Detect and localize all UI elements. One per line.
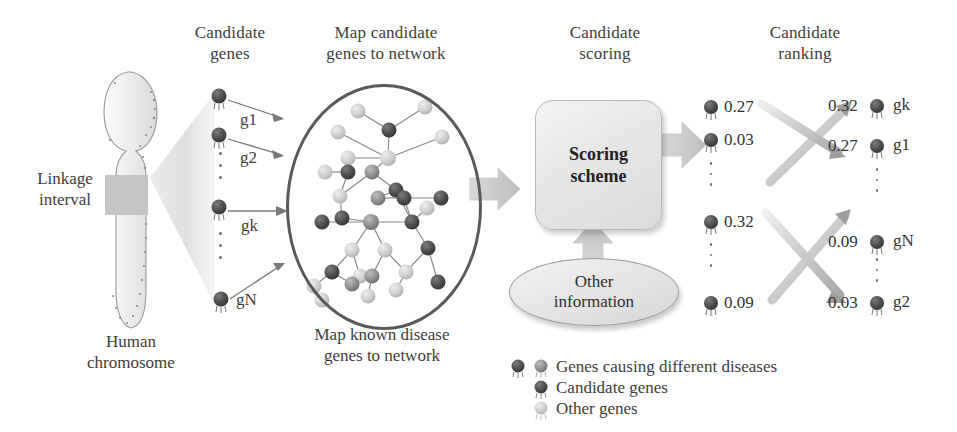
stage-title-map-to-network: Map candidate genes to network — [296, 22, 476, 64]
zoom-funnel — [150, 92, 215, 305]
arrow-scoring-to-scores — [662, 122, 706, 168]
network-caption-line2: genes to network — [287, 345, 477, 366]
candidate-column-dots-lower — [213, 232, 227, 268]
other-info-line1: Other — [554, 272, 634, 292]
stage-title-candidate-scoring: Candidate scoring — [525, 22, 685, 64]
linkage-label-line2: interval — [24, 189, 106, 210]
human-chromosome-caption: Human chromosome — [46, 331, 216, 373]
scored-value-0: 0.27 — [724, 98, 754, 116]
stage-title-line2: genes — [170, 43, 290, 64]
other-information-text: Other information — [554, 272, 634, 312]
candidate-gene-label-gk: gk — [241, 216, 258, 236]
candidate-column-dots-upper — [213, 152, 227, 188]
linkage-label-line1: Linkage — [24, 168, 106, 189]
chromosome-caption-line1: Human — [46, 331, 216, 352]
ranked-label-2: gN — [893, 232, 914, 250]
scored-column-dots-lower — [705, 243, 717, 275]
linkage-interval-label: Linkage interval — [24, 168, 106, 210]
stage-title-candidate-ranking: Candidate ranking — [725, 22, 885, 64]
candidate-gene-label-gN: gN — [236, 290, 257, 310]
scored-column-dots-upper — [705, 162, 717, 194]
ranked-value-0: 0.32 — [828, 97, 858, 115]
legend-row-disease-genes: Genes causing different diseases — [556, 356, 777, 377]
scored-value-2: 0.32 — [724, 213, 754, 231]
legend-icon-candidate-genes — [535, 381, 548, 400]
linkage-interval-band — [105, 175, 148, 215]
candidate-arrowheads — [272, 113, 288, 271]
legend-row-other-genes: Other genes — [556, 398, 638, 419]
scored-value-3: 0.09 — [724, 294, 754, 312]
network-caption: Map known disease genes to network — [287, 324, 477, 366]
ranked-column-dots-upper — [871, 168, 883, 200]
scoring-scheme-box[interactable]: Scoring scheme — [535, 100, 662, 230]
ranked-column-dots-lower — [871, 258, 883, 290]
stage-title-line1: Candidate — [170, 22, 290, 43]
scoring-scheme-text: Scoring scheme — [569, 143, 628, 187]
other-info-line2: information — [554, 292, 634, 312]
ranked-label-1: g1 — [893, 136, 910, 154]
stage-title-line1: Candidate — [725, 22, 885, 43]
legend-icons — [512, 360, 548, 421]
network-caption-line1: Map known disease — [287, 324, 477, 345]
scored-gene-icons — [704, 100, 718, 316]
other-information-node[interactable]: Other information — [509, 258, 679, 326]
stage-title-line2: ranking — [725, 43, 885, 64]
legend-icon-disease-genes — [512, 360, 548, 379]
scoring-box-line2: scheme — [569, 165, 628, 187]
ranked-value-3: 0.03 — [828, 294, 858, 312]
scored-value-1: 0.03 — [724, 131, 754, 149]
scoring-box-line1: Scoring — [569, 143, 628, 165]
legend-icon-other-genes — [535, 402, 548, 421]
ranked-label-3: g2 — [893, 293, 910, 311]
human-chromosome-graphic — [104, 72, 157, 328]
network-boundary-ellipse — [286, 84, 482, 330]
stage-title-candidate-genes: Candidate genes — [170, 22, 290, 64]
ranked-value-2: 0.09 — [828, 233, 858, 251]
stage-title-line1: Map candidate — [296, 22, 476, 43]
ranked-label-0: gk — [893, 96, 910, 114]
legend-row-candidate-genes: Candidate genes — [556, 377, 668, 398]
ranked-value-1: 0.27 — [828, 137, 858, 155]
ranking-cross-arrows-lower — [766, 209, 851, 303]
candidate-gene-label-g2: g2 — [240, 148, 257, 168]
stage-title-line2: genes to network — [296, 43, 476, 64]
stage-title-line1: Candidate — [525, 22, 685, 43]
candidate-gene-label-g1: g1 — [240, 110, 257, 130]
stage-title-line2: scoring — [525, 43, 685, 64]
chromosome-caption-line2: chromosome — [46, 352, 216, 373]
